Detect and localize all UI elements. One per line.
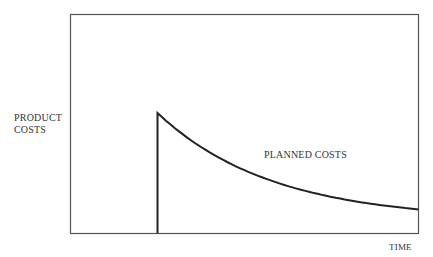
series-label-planned-costs: PLANNED COSTS	[264, 149, 347, 161]
y-axis-label-line1: PRODUCT	[14, 112, 62, 124]
y-axis-label-line2: COSTS	[14, 124, 62, 136]
y-axis-label: PRODUCT COSTS	[14, 112, 62, 136]
chart-canvas	[0, 0, 433, 257]
x-axis-label: TIME	[389, 241, 412, 253]
planned-costs-curve	[158, 113, 419, 234]
plot-frame	[71, 15, 419, 234]
